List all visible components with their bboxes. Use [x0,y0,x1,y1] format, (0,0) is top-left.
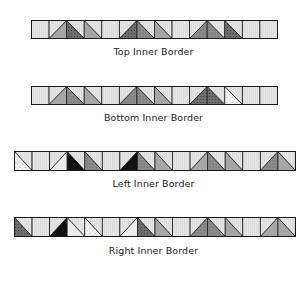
quilt-square [190,87,208,105]
quilt-square [190,21,208,39]
border-strip-svg [31,86,278,105]
right-inner-border-label: Right Inner Border [0,245,307,256]
quilt-square [172,21,190,39]
quilt-square [242,21,260,39]
bottom-inner-border-strip [31,86,278,105]
quilt-square [225,152,243,171]
quilt-square [67,87,85,105]
quilt-square [137,152,155,171]
bottom-inner-border-label: Bottom Inner Border [0,112,307,123]
top-inner-border-label: Top Inner Border [0,46,307,57]
quilt-square [190,152,208,171]
quilt-square [119,87,137,105]
quilt-square [67,152,85,171]
quilt-square [173,152,191,171]
quilt-square [67,218,85,237]
quilt-square [208,152,226,171]
quilt-square [260,87,278,105]
border-strip-svg [31,20,278,39]
quilt-square [137,87,155,105]
quilt-square [102,218,120,237]
quilt-square [15,152,33,171]
top-inner-border-strip [31,20,278,39]
left-inner-border-strip [14,151,296,171]
quilt-square [172,87,190,105]
quilt-square [225,21,243,39]
quilt-square [154,87,172,105]
quilt-square [50,152,68,171]
quilt-square [243,152,261,171]
quilt-square [190,218,208,237]
quilt-square [102,152,120,171]
quilt-square [119,21,137,39]
quilt-square [208,218,226,237]
quilt-square [15,218,33,237]
quilt-square [67,21,85,39]
quilt-square [84,21,102,39]
quilt-square [137,218,155,237]
quilt-square [84,87,102,105]
quilt-square [225,87,243,105]
quilt-square [32,87,50,105]
quilt-square [155,218,173,237]
quilt-square [120,218,138,237]
quilt-square [154,21,172,39]
quilt-square [50,218,68,237]
quilt-square [32,218,50,237]
quilt-square [85,152,103,171]
quilt-square [32,21,50,39]
quilt-square [32,152,50,171]
quilt-square [260,218,278,237]
quilt-square [260,21,278,39]
quilt-square [173,218,191,237]
quilt-square [155,152,173,171]
quilt-square [243,218,261,237]
quilt-square [49,21,67,39]
border-strip-svg [14,151,296,171]
quilt-square [120,152,138,171]
quilt-square [207,21,225,39]
quilt-square [242,87,260,105]
border-strip-svg [14,217,296,237]
right-inner-border-strip [14,217,296,237]
quilt-square [207,87,225,105]
quilt-square [102,21,120,39]
quilt-square [260,152,278,171]
left-inner-border-label: Left Inner Border [0,178,307,189]
quilt-square [225,218,243,237]
quilt-square [278,152,296,171]
quilt-square [85,218,103,237]
quilt-square [137,21,155,39]
quilt-square [49,87,67,105]
quilt-square [278,218,296,237]
quilt-square [102,87,120,105]
